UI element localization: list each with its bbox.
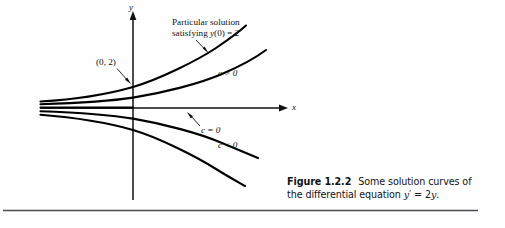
particular-solution-annotation: Particular solution satisfying y(0) = 2 — [172, 17, 240, 53]
x-axis-label: x — [291, 102, 296, 112]
figure-caption: Figure 1.2.2Some solution curves of the … — [287, 176, 483, 201]
particular-solution-line2-pre: satisfying — [172, 28, 210, 38]
point-annotation: (0, 2) — [96, 57, 131, 84]
c-positive-label: c > 0 — [218, 68, 238, 78]
figure-number: Figure 1.2.2 — [287, 176, 351, 187]
point-label: (0, 2) — [96, 57, 116, 67]
caption-text-2: the differential equation — [287, 189, 404, 200]
caption-text-1: Some solution curves of — [358, 176, 471, 187]
y-axis — [130, 11, 137, 200]
caption-eq-period: . — [436, 189, 439, 200]
caption-eq-equals: = 2 — [411, 189, 431, 200]
figure-page: y x Particular solution satisfying y(0) … — [0, 0, 505, 228]
particular-solution-line2: satisfying y(0) = 2 — [172, 28, 240, 38]
c-zero-label: c = 0 — [201, 125, 221, 135]
c-negative-label: c < 0 — [218, 140, 238, 150]
particular-solution-line2-post: (0) = 2 — [214, 28, 239, 38]
particular-solution-line1: Particular solution — [172, 17, 240, 27]
y-axis-label: y — [128, 2, 133, 12]
